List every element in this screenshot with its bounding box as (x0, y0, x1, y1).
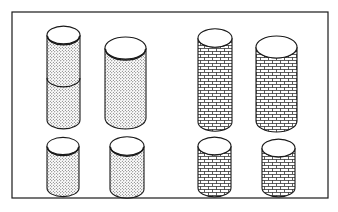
cylinder-dotted-large (105, 37, 146, 129)
cylinder-top (47, 26, 80, 44)
cylinder-top (47, 137, 79, 154)
cylinders-illustration (0, 0, 338, 212)
cylinder-top (262, 139, 295, 157)
cylinder-top (198, 137, 231, 155)
cylinder-body (256, 47, 297, 132)
cylinder-body (47, 35, 80, 129)
cylinder-brick-tall (198, 29, 232, 131)
cylinder-dotted-small-left (47, 137, 79, 196)
cylinder-brick-small-left (198, 137, 231, 197)
cylinder-brick-small-right (262, 139, 295, 197)
cylinder-body (198, 38, 232, 131)
cylinder-top (110, 137, 144, 155)
cylinder-top (198, 29, 232, 47)
cylinder-dotted-tall-split (47, 26, 80, 129)
cylinder-dotted-small-right (110, 137, 144, 198)
cylinder-top (105, 37, 146, 59)
cylinder-brick-large (256, 36, 297, 132)
cylinder-top (256, 36, 297, 58)
